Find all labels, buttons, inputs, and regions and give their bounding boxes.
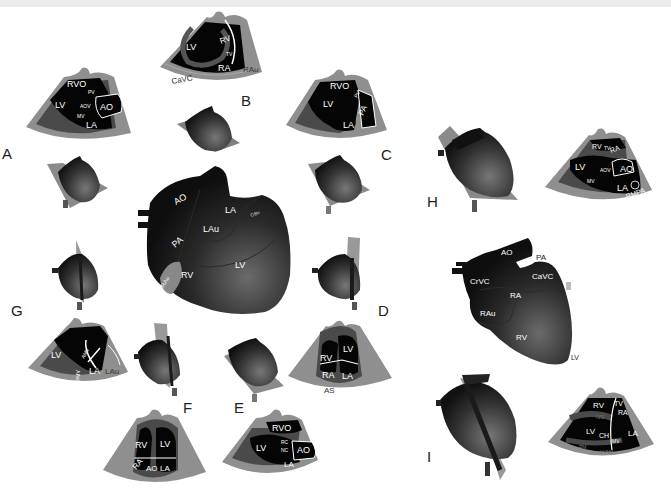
view-letter-h: H [427, 193, 438, 210]
label-la: LA [342, 371, 353, 381]
echo-view-c: RVO PV LV PA LA [286, 70, 387, 138]
label-lv: LV [256, 443, 266, 453]
label-lau: LAu [203, 224, 219, 234]
label-ivs: IVS [596, 414, 605, 420]
label-ao: AO [501, 248, 513, 257]
label-tv: TV [614, 400, 623, 407]
label-cavc: CaVC [171, 73, 194, 86]
label-aov: AOV [80, 103, 91, 109]
echo-view-e: RVO LV RC NC AO LA [222, 410, 318, 473]
label-pa: PA [536, 253, 547, 262]
label-lv: LV [55, 100, 65, 110]
figure-canvas: LV RV TV RA RAu CaVC B RVO PV LV AOV AO … [0, 0, 671, 493]
label-mv: MV [612, 438, 620, 444]
view-letter-e: E [234, 399, 244, 416]
heart-plane-h [438, 126, 518, 212]
label-lv: LV [51, 350, 61, 360]
label-lv: LV [323, 99, 333, 109]
view-letter-g: G [11, 302, 23, 319]
heart-plane-e [224, 338, 284, 402]
label-as: AS [324, 386, 335, 395]
label-ra: RA [618, 409, 628, 416]
echo-view-f: LV RV RA AO LA [103, 410, 206, 482]
heart-plane-a [47, 156, 108, 208]
echo-view-d: LV RV RA LA AS [288, 321, 392, 395]
echo-view-h: RV TV RA LV AOV AO MV LA RMPA [545, 129, 652, 200]
label-pv: PV [88, 89, 95, 95]
view-letter-f: F [183, 399, 192, 416]
label-ra: RA [218, 63, 231, 73]
heart-plane-b [177, 106, 240, 152]
label-la: LA [284, 460, 294, 469]
label-ao: AO [146, 464, 158, 473]
label-nc: NC [281, 447, 289, 453]
label-aov: AOV [600, 167, 611, 173]
label-rv: RV [181, 270, 193, 280]
label-lv: LV [586, 427, 596, 436]
label-lv: LV [186, 42, 196, 52]
label-ra: RA [322, 370, 335, 380]
label-lv: LV [575, 162, 585, 172]
heart-plane-f [134, 323, 180, 396]
heart-plane-i [436, 374, 516, 480]
label-rv: RV [593, 401, 605, 410]
label-rc: RC [281, 439, 289, 445]
heart-left-lateral: AO LA GBv LAu PA LV RAu RV [138, 166, 290, 314]
label-ch: CH [599, 432, 609, 439]
label-la: LA [86, 120, 97, 130]
echo-view-a: RVO PV LV AOV AO MV LA [26, 68, 131, 139]
label-lv: LV [571, 354, 579, 361]
label-ao: AO [297, 445, 310, 455]
label-crvc: CrVC [470, 277, 490, 286]
view-letter-d: D [378, 302, 389, 319]
label-mv: MV [77, 113, 85, 119]
label-rv: RV [516, 333, 528, 342]
view-letter-i: I [427, 448, 431, 465]
label-pm: PM [579, 444, 587, 450]
label-ao: AO [100, 102, 113, 112]
label-lv: LV [235, 260, 245, 270]
label-pmv: PMV [75, 370, 81, 382]
heart-plane-d [312, 237, 360, 310]
echo-view-i: RV TV RA IVS LV CH MV LA PM LVW [548, 388, 654, 456]
label-la: LA [617, 183, 628, 193]
label-la: LA [89, 366, 100, 376]
label-la: LA [160, 464, 170, 473]
label-rv: RV [320, 353, 332, 363]
label-cavc: CaVC [532, 272, 554, 281]
view-letter-a: A [2, 145, 12, 162]
label-mv: MV [587, 178, 595, 184]
label-ao: AO [620, 164, 633, 174]
label-rvo: RVO [272, 423, 291, 433]
label-la: LA [628, 429, 638, 438]
heart-plane-c [308, 155, 370, 214]
label-rv: RV [135, 440, 147, 450]
heart-right-lateral: AO PA CrVC CaVC RA RAu RV LV [452, 238, 579, 365]
heart-plane-g [52, 240, 98, 310]
echo-view-g: LV AMV PMV LA LAu [28, 318, 128, 381]
label-tv: TV [226, 51, 233, 57]
echo-view-b: LV RV TV RA RAu CaVC [160, 12, 262, 86]
label-rvo: RVO [67, 79, 86, 89]
label-la: LA [343, 120, 354, 130]
label-lv: LV [343, 344, 353, 354]
view-letter-c: C [381, 146, 392, 163]
label-lvw: LVW [600, 449, 613, 455]
label-la: LA [225, 205, 236, 215]
label-rau: RAu [243, 65, 259, 74]
label-rau: RAu [480, 309, 496, 318]
view-letter-b: B [241, 92, 251, 109]
label-rvo: RVO [330, 81, 349, 91]
label-lau: LAu [105, 367, 119, 376]
label-ra: RA [510, 291, 522, 300]
label-rv: RV [592, 143, 602, 150]
label-lv: LV [160, 439, 170, 449]
